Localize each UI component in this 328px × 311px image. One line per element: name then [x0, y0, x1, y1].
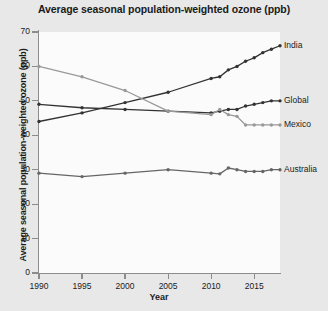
- data-point-mexico: [218, 108, 221, 111]
- data-point-global: [244, 104, 247, 107]
- data-point-global: [270, 99, 273, 102]
- series-label-india: India: [284, 40, 302, 50]
- data-point-australia: [80, 175, 83, 178]
- data-point-australia: [235, 168, 238, 171]
- data-point-mexico: [209, 113, 212, 116]
- x-axis-label: Year: [39, 292, 279, 302]
- series-label-global: Global: [284, 95, 309, 105]
- data-point-global: [227, 108, 230, 111]
- data-point-mexico: [123, 89, 126, 92]
- data-point-india: [261, 51, 264, 54]
- data-point-global: [235, 108, 238, 111]
- data-point-india: [252, 56, 255, 59]
- data-point-india: [235, 65, 238, 68]
- data-point-global: [123, 108, 126, 111]
- data-point-australia: [37, 171, 40, 174]
- data-point-global: [252, 103, 255, 106]
- data-point-australia: [244, 170, 247, 173]
- data-point-australia: [227, 166, 230, 169]
- data-point-india: [278, 44, 281, 47]
- data-point-india: [123, 101, 126, 104]
- data-point-india: [37, 120, 40, 123]
- data-point-india: [218, 75, 221, 78]
- data-point-mexico: [252, 123, 255, 126]
- data-point-mexico: [244, 123, 247, 126]
- data-point-australia: [252, 170, 255, 173]
- data-point-australia: [218, 172, 221, 175]
- data-point-global: [278, 99, 281, 102]
- series-label-australia: Australia: [284, 164, 317, 174]
- data-point-global: [261, 101, 264, 104]
- data-point-mexico: [37, 65, 40, 68]
- data-point-mexico: [166, 109, 169, 112]
- data-point-australia: [123, 171, 126, 174]
- data-point-australia: [270, 168, 273, 171]
- data-point-mexico: [235, 115, 238, 118]
- data-point-mexico: [227, 113, 230, 116]
- ozone-line-chart: Average seasonal population-weighted ozo…: [0, 0, 328, 311]
- data-point-mexico: [80, 75, 83, 78]
- data-point-mexico: [278, 123, 281, 126]
- series-line-mexico: [39, 66, 280, 125]
- series-line-australia: [39, 168, 280, 177]
- data-point-mexico: [261, 123, 264, 126]
- data-point-australia: [278, 168, 281, 171]
- data-point-india: [244, 60, 247, 63]
- data-point-india: [209, 77, 212, 80]
- series-line-india: [39, 46, 280, 122]
- data-point-india: [166, 91, 169, 94]
- data-point-india: [227, 68, 230, 71]
- data-point-global: [80, 106, 83, 109]
- series-lines: [0, 0, 328, 311]
- data-point-australia: [209, 171, 212, 174]
- data-point-australia: [166, 168, 169, 171]
- data-point-india: [80, 111, 83, 114]
- data-point-india: [270, 48, 273, 51]
- data-point-mexico: [270, 123, 273, 126]
- data-point-global: [37, 103, 40, 106]
- data-point-australia: [261, 170, 264, 173]
- series-label-mexico: Mexico: [284, 119, 311, 129]
